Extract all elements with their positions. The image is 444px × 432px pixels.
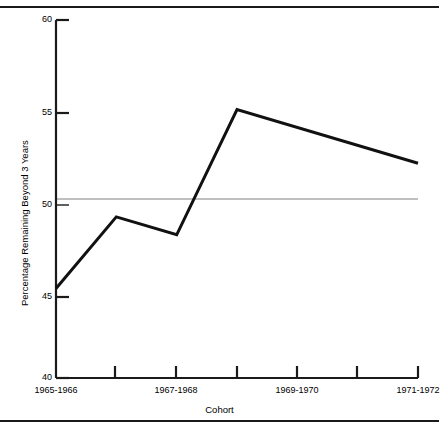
x-tick-label-1971-1972: 1971-1972 xyxy=(383,386,444,395)
y-tick-label-60: 60 xyxy=(30,15,52,24)
x-axis-title: Cohort xyxy=(0,404,439,415)
y-tick-label-45: 45 xyxy=(30,292,52,301)
y-axis-title: Percentage Remaining Beyond 3 Years xyxy=(19,140,30,306)
x-tick-label-1967-1968: 1967-1968 xyxy=(141,386,211,395)
x-tick-label-1969-1970: 1969-1970 xyxy=(262,386,332,395)
y-tick-label-55: 55 xyxy=(30,108,52,117)
y-tick-label-40: 40 xyxy=(30,373,52,382)
y-tick-label-50: 50 xyxy=(30,200,52,209)
x-tick-label-1965-1966: 1965-1966 xyxy=(21,386,91,395)
